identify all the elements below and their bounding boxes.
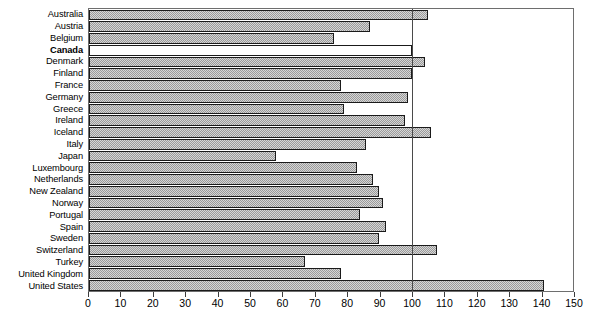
axis-tick-label: 110: [436, 298, 453, 309]
horizontal-bar-chart: AustraliaAustriaBelgiumCanadaDenmarkFinl…: [0, 0, 595, 325]
category-axis-labels: AustraliaAustriaBelgiumCanadaDenmarkFinl…: [0, 9, 86, 292]
axis-tick-label: 150: [565, 298, 583, 309]
bar: [89, 256, 305, 267]
bar-row: [89, 91, 573, 103]
bar-row: [89, 174, 573, 186]
axis-tick-label: 20: [147, 298, 159, 309]
plot-area: [88, 8, 574, 292]
bar-row: [89, 150, 573, 162]
axis-tick-label: 0: [85, 298, 91, 309]
bar-row: [89, 44, 573, 56]
axis-tick-label: 120: [468, 298, 486, 309]
bar-row: [89, 244, 573, 256]
category-label: Portugal: [0, 210, 86, 222]
bar-row: [89, 162, 573, 174]
bar-row: [89, 197, 573, 209]
bar: [89, 268, 341, 279]
category-label: Germany: [0, 92, 86, 104]
category-label: Ireland: [0, 115, 86, 127]
bar: [89, 104, 344, 115]
bar: [89, 139, 366, 150]
axis-tick-label: 60: [277, 298, 289, 309]
bar-row: [89, 115, 573, 127]
category-label: Luxembourg: [0, 162, 86, 174]
bar: [89, 80, 341, 91]
bar: [89, 127, 431, 138]
reference-line-100: [412, 9, 413, 291]
axis-tick-label: 10: [115, 298, 127, 309]
category-label: Austria: [0, 21, 86, 33]
category-label: Denmark: [0, 56, 86, 68]
axis-tick-label: 130: [500, 298, 518, 309]
category-label: Japan: [0, 151, 86, 163]
bar-series: [89, 9, 573, 291]
category-label: United Kingdom: [0, 269, 86, 281]
bar: [89, 221, 386, 232]
bar-row: [89, 232, 573, 244]
axis-tick-label: 80: [341, 298, 353, 309]
bar: [89, 115, 405, 126]
bar-row: [89, 68, 573, 80]
bar: [89, 245, 437, 256]
bar-row: [89, 256, 573, 268]
bar: [89, 198, 383, 209]
bar: [89, 174, 373, 185]
category-label: Sweden: [0, 233, 86, 245]
bar-row: [89, 9, 573, 21]
axis-tick-label: 140: [533, 298, 551, 309]
axis-tick-label: 100: [403, 298, 421, 309]
category-label: New Zealand: [0, 186, 86, 198]
axis-tick-label: 30: [179, 298, 191, 309]
axis-tick-label: 40: [212, 298, 224, 309]
bar-row: [89, 138, 573, 150]
category-label: Norway: [0, 198, 86, 210]
bar: [89, 151, 276, 162]
bar: [89, 10, 428, 21]
bar-row: [89, 103, 573, 115]
bar-row: [89, 33, 573, 45]
category-label: Netherlands: [0, 174, 86, 186]
category-label: Switzerland: [0, 245, 86, 257]
category-label: Iceland: [0, 127, 86, 139]
category-label: Turkey: [0, 257, 86, 269]
bar: [89, 68, 412, 79]
axis-tick-label: 50: [244, 298, 256, 309]
value-axis: 0102030405060708090100110120130140150: [88, 292, 574, 325]
bar: [89, 45, 412, 56]
bar: [89, 280, 544, 291]
bar: [89, 162, 357, 173]
bar-row: [89, 209, 573, 221]
bar: [89, 57, 425, 68]
category-label: Finland: [0, 68, 86, 80]
bar-row: [89, 127, 573, 139]
axis-tick-label: 70: [309, 298, 321, 309]
bar-row: [89, 80, 573, 92]
bar: [89, 21, 370, 32]
bar-row: [89, 185, 573, 197]
bar: [89, 209, 360, 220]
bar-row: [89, 279, 573, 291]
axis-tick-label: 90: [374, 298, 386, 309]
bar-row: [89, 221, 573, 233]
category-label: France: [0, 80, 86, 92]
bar: [89, 92, 408, 103]
category-label: Belgium: [0, 33, 86, 45]
category-label: Canada: [0, 44, 86, 56]
category-label: United States: [0, 280, 86, 292]
category-label: Australia: [0, 9, 86, 21]
category-label: Spain: [0, 221, 86, 233]
bar: [89, 33, 334, 44]
bar: [89, 233, 379, 244]
bar-row: [89, 56, 573, 68]
bar-row: [89, 268, 573, 280]
bar-row: [89, 21, 573, 33]
category-label: Greece: [0, 103, 86, 115]
bar: [89, 186, 379, 197]
category-label: Italy: [0, 139, 86, 151]
